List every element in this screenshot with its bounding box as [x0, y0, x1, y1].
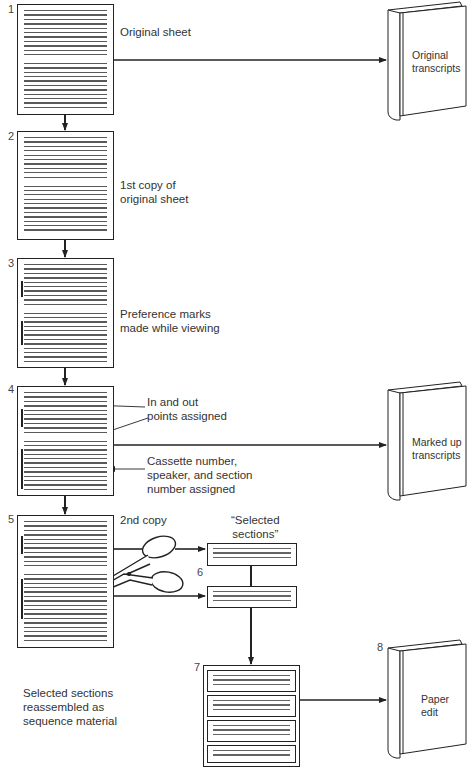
step-number-8: 8	[377, 641, 383, 653]
reassembled-sequence	[203, 665, 300, 767]
sheet-preference-marks	[17, 258, 114, 368]
step-number-5: 5	[8, 513, 14, 525]
sheet-marked-up	[17, 386, 114, 496]
sheet-original	[17, 4, 114, 115]
sequence-section-3	[207, 720, 296, 742]
label-second-copy: 2nd copy	[120, 513, 167, 527]
sheet-first-copy	[17, 131, 114, 240]
sheet-second-copy	[17, 515, 114, 648]
step-number-3: 3	[8, 257, 14, 269]
label-first-copy: 1st copy of original sheet	[120, 178, 188, 206]
step-number-2: 2	[8, 130, 14, 142]
sequence-section-2	[207, 695, 296, 717]
label-original-sheet: Original sheet	[120, 25, 191, 39]
step-number-6: 6	[197, 566, 203, 578]
label-preference-marks: Preference marks made while viewing	[120, 307, 220, 335]
book-title-marked-up-transcripts: Marked up transcripts	[412, 436, 462, 462]
sequence-section-1	[207, 670, 296, 692]
label-cassette-number: Cassette number, speaker, and section nu…	[147, 454, 253, 496]
book-title-original-transcripts: Original transcripts	[412, 49, 460, 75]
book-title-paper-edit: Paper edit	[421, 693, 449, 719]
label-in-out-points: In and out points assigned	[147, 395, 227, 423]
step-number-7: 7	[194, 661, 200, 673]
step-number-1: 1	[8, 3, 14, 15]
sequence-section-4	[207, 745, 296, 763]
label-reassembled: Selected sections reassembled as sequenc…	[23, 686, 117, 728]
step-number-4: 4	[8, 383, 14, 395]
label-selected-sections: “Selected sections”	[231, 513, 280, 541]
selected-section-2	[207, 586, 297, 608]
selected-section-1	[207, 543, 297, 566]
